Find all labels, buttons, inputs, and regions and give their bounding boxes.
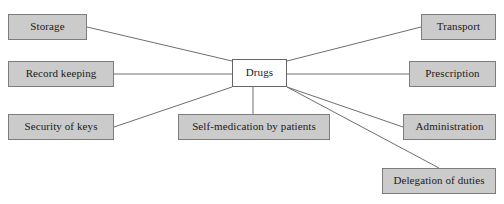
node-drugs-label: Drugs <box>246 67 273 79</box>
node-delegation-label: Delegation of duties <box>393 175 484 187</box>
node-storage[interactable]: Storage <box>8 14 87 40</box>
diagram-canvas: Drugs Storage Record keeping Security of… <box>0 0 504 204</box>
node-storage-label: Storage <box>30 21 64 33</box>
node-administration-label: Administration <box>415 121 483 133</box>
edge-transport <box>287 27 421 61</box>
node-self-medication-label: Self-medication by patients <box>192 121 316 133</box>
node-self-medication[interactable]: Self-medication by patients <box>178 114 330 140</box>
edge-storage <box>87 27 232 61</box>
node-security-of-keys-label: Security of keys <box>24 121 97 133</box>
node-record-keeping[interactable]: Record keeping <box>8 61 114 87</box>
node-record-keeping-label: Record keeping <box>26 68 97 80</box>
node-transport-label: Transport <box>437 21 480 33</box>
node-delegation[interactable]: Delegation of duties <box>382 168 496 194</box>
node-prescription-label: Prescription <box>425 68 479 80</box>
node-administration[interactable]: Administration <box>403 114 496 140</box>
node-transport[interactable]: Transport <box>421 14 496 40</box>
node-security-of-keys[interactable]: Security of keys <box>8 114 114 140</box>
node-drugs[interactable]: Drugs <box>232 59 287 87</box>
node-prescription[interactable]: Prescription <box>409 61 496 87</box>
